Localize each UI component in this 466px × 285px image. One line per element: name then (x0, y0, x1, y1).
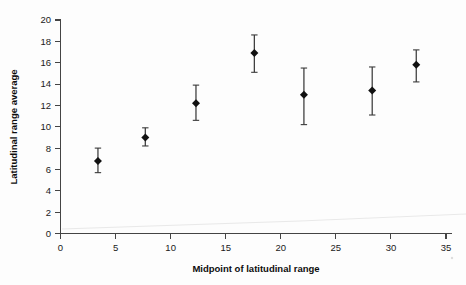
svg-text:14: 14 (40, 78, 51, 89)
svg-text:12: 12 (40, 100, 51, 111)
svg-text:0: 0 (46, 228, 51, 239)
scan-artifact-line (62, 214, 466, 229)
y-axis-ticks: 02468101214161820 (40, 14, 60, 239)
data-points-layer (94, 35, 420, 173)
x-axis-title: Midpoint of latitudinal range (192, 263, 319, 274)
svg-text:25: 25 (331, 242, 342, 253)
svg-text:6: 6 (46, 164, 51, 175)
svg-text:16: 16 (40, 57, 51, 68)
y-axis-title: Latitudinal range average (8, 69, 19, 184)
svg-text:0: 0 (58, 242, 63, 253)
svg-text:30: 30 (386, 242, 397, 253)
svg-text:15: 15 (220, 242, 231, 253)
x-axis-ticks: 05101520253035 (58, 234, 451, 254)
svg-text:2: 2 (46, 207, 51, 218)
svg-text:8: 8 (46, 143, 51, 154)
chart-figure: 02468101214161820 05101520253035 Midpoin… (0, 0, 466, 285)
svg-text:5: 5 (113, 242, 118, 253)
svg-text:4: 4 (46, 185, 51, 196)
scatter-plot-svg: 02468101214161820 05101520253035 Midpoin… (0, 0, 466, 285)
svg-text:20: 20 (40, 14, 51, 25)
svg-text:18: 18 (40, 36, 51, 47)
svg-text:20: 20 (275, 242, 286, 253)
scan-speck (451, 257, 453, 259)
svg-text:35: 35 (441, 242, 452, 253)
svg-text:10: 10 (165, 242, 176, 253)
svg-text:10: 10 (40, 121, 51, 132)
